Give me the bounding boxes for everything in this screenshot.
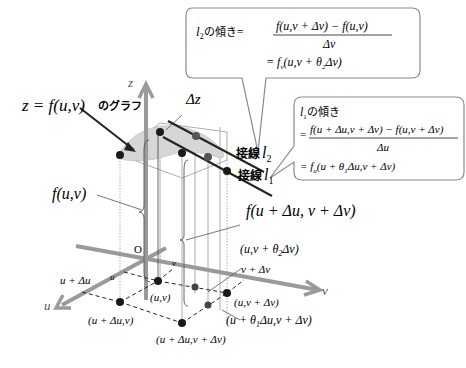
point-floor-theta2: [192, 284, 199, 291]
graph-label-suffix: のグラフ: [98, 99, 142, 113]
tangent-l1-sub: 1: [268, 175, 273, 186]
label-point-theta2: (u,v + θ2Δv): [240, 242, 299, 258]
tangent-l2-sub: 2: [266, 153, 271, 164]
callout-l2-denominator: Δv: [322, 37, 336, 51]
point-floor-u-du-v: [116, 298, 124, 306]
tangent-l1-prefix: 接線: [238, 168, 262, 183]
tick-u-plus-du: u + Δu: [60, 274, 91, 286]
label-point-theta1: (u + θ1Δu,v + Δv): [226, 313, 312, 329]
callout-l2-eq: =: [237, 25, 244, 39]
height-left-label: f(u,v): [52, 185, 86, 203]
callout-l1: l1の傾き = f(u + Δu,v + Δv) − f(u,v + Δv) Δ…: [270, 97, 464, 180]
tick-v-plus-dv: v + Δv: [241, 263, 270, 275]
origin-label: O: [134, 243, 142, 255]
callout-l2-result-args: (u,v + θ: [284, 55, 322, 69]
point-surface-theta2: [192, 132, 200, 140]
brace-right: [180, 160, 188, 306]
z-axis-label: z: [127, 75, 133, 90]
callout-l1-lhs-suffix: の傾き: [307, 105, 340, 118]
point-floor-u-v-dv: [223, 289, 231, 297]
label-point-u-v-dv: (u,v + Δv): [234, 296, 279, 309]
label-point-u-du-v: (u + Δu,v): [88, 314, 134, 327]
callout-l1-result-args: (u + θ: [317, 160, 345, 173]
callout-l2-result: = fv(u,v + θ2Δv): [266, 55, 342, 71]
theta1-post: Δu,v + Δv): [259, 313, 312, 327]
tangent-l2-prefix: 接線: [236, 146, 260, 161]
height-right-label: f(u + Δu, v + Δv): [246, 202, 356, 220]
callout-l2-numerator: f(u,v + Δv) − f(u,v): [276, 19, 368, 33]
point-surface-uv: [156, 128, 164, 136]
callout-l1-denominator: Δu: [376, 141, 389, 153]
callout-l2-result-tail: Δv): [324, 55, 341, 69]
theta2-pre: (u,v + θ: [240, 242, 278, 256]
u-axis-label: u: [44, 298, 51, 313]
callout-l1-eq: =: [300, 128, 306, 140]
point-surface-theta1: [204, 153, 212, 161]
callout-l2-lhs-suffix: の傾き: [204, 25, 237, 38]
tangent-l1-label: 接線l1: [238, 166, 273, 186]
delta-z-label: Δz: [185, 91, 201, 107]
theta1-pre: (u + θ: [226, 313, 256, 327]
point-surface-u-du-v: [116, 151, 124, 159]
v-axis-label: v: [322, 283, 328, 298]
graph-label-formula: z = f(u,v): [21, 96, 85, 115]
graph-label-pointer: [80, 108, 134, 150]
label-point-u-du-v-dv: (u + Δu,v + Δv): [156, 333, 226, 346]
point-floor-u-du-v-dv: [178, 319, 186, 327]
tick-u: u: [110, 272, 115, 282]
point-floor-uv: [154, 277, 162, 285]
point-floor-theta1: [205, 302, 212, 309]
theta2-post: Δv): [281, 242, 298, 256]
label-point-uv: (u,v): [150, 291, 171, 304]
point-surface-u-du-v-dv-a: [178, 149, 186, 157]
callout-l1-result-tail: Δu,v + Δv): [347, 160, 396, 173]
callout-l1-numerator: f(u + Δu,v + Δv) − f(u,v + Δv): [310, 123, 444, 136]
point-surface-u-v-dv: [223, 167, 231, 175]
tick-v: v: [172, 258, 176, 268]
diagram-canvas: l2の傾き= f(u,v + Δv) − f(u,v) Δv = fv(u,v …: [0, 0, 466, 368]
